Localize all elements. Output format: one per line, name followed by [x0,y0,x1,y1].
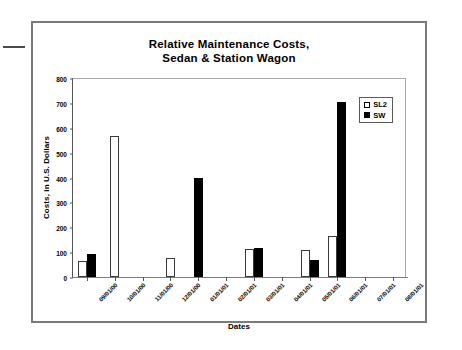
x-tick-mark [365,277,366,281]
y-tick-label: 500 [56,150,67,157]
bar-sl2 [166,258,175,277]
bar-sw [310,260,319,277]
chart-title-line-2: Sedan & Station Wagon [31,52,427,66]
bar-sl2 [301,250,310,277]
bar-sl2 [245,249,254,277]
bar-series-container [73,79,405,277]
y-axis-title: Costs, in U.S. Dollars [40,78,54,277]
bar-sl2 [78,261,87,277]
legend-label-sw: SW [373,112,385,120]
bar-group [73,79,101,277]
y-tick-mark [70,203,74,204]
y-tick-mark [70,128,74,129]
y-tick-label: 200 [56,225,67,232]
left-margin-dash [3,46,25,48]
y-tick-mark [70,79,74,80]
y-tick-label: 100 [56,250,67,257]
bar-group [240,79,268,277]
x-tick-mark [115,277,116,281]
y-tick-mark [70,103,74,104]
y-tick-label: 600 [56,125,67,132]
bar-sw [254,248,263,277]
bar-sl2 [328,236,337,277]
bar-group [212,79,240,277]
chart-page: Relative Maintenance Costs, Sedan & Stat… [0,0,462,350]
x-tick-mark [393,277,394,281]
y-tick-label: 300 [56,200,67,207]
bar-group [184,79,212,277]
y-tick-mark [70,153,74,154]
bar-group [324,79,352,277]
y-tick-mark [70,178,74,179]
chart-title-line-1: Relative Maintenance Costs, [31,38,427,52]
y-tick-label: 700 [56,100,67,107]
chart-title: Relative Maintenance Costs, Sedan & Stat… [31,38,427,65]
x-tick-mark [198,277,199,281]
bar-group [296,79,324,277]
bar-group [157,79,185,277]
x-tick-mark [87,277,88,281]
x-tick-mark [282,277,283,281]
y-tick-mark [70,228,74,229]
x-axis-title: Dates [72,322,406,331]
x-tick-mark [254,277,255,281]
bar-group [129,79,157,277]
bar-sw [337,102,346,277]
y-tick-label: 400 [56,175,67,182]
x-tick-mark [170,277,171,281]
legend-swatch-black-square-icon [364,112,370,118]
plot-area: 0100200300400500600700800 09/01/0010/01/… [72,78,406,277]
x-tick-mark [143,277,144,281]
x-tick-mark [337,277,338,281]
bar-sw [194,178,203,278]
y-tick-mark [70,253,74,254]
y-axis-title-text: Costs, in U.S. Dollars [43,136,52,219]
y-tick-label: 0 [63,275,67,282]
legend-item-sl2: SL2 [364,101,387,109]
chart-legend: SL2 SW [359,97,393,123]
y-tick-mark [70,278,74,279]
bar-group [268,79,296,277]
legend-item-sw: SW [364,112,387,120]
x-tick-mark [310,277,311,281]
bar-sw [87,254,96,277]
y-tick-label: 800 [56,76,67,83]
bar-sl2 [110,136,119,277]
legend-label-sl2: SL2 [373,101,387,109]
legend-swatch-white-square-icon [364,102,370,108]
x-tick-mark [226,277,227,281]
bar-group [101,79,129,277]
